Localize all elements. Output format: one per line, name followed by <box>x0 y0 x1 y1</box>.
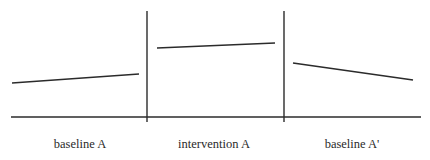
phase-label-intervention-a: intervention A <box>178 137 250 151</box>
trend-line-baseline-a-prime <box>293 63 413 80</box>
aba-design-diagram: baseline A intervention A baseline A' <box>0 0 430 160</box>
trend-line-intervention-a <box>157 43 275 48</box>
phase-label-baseline-a: baseline A <box>54 137 106 151</box>
phase-label-baseline-a-prime: baseline A' <box>325 137 380 151</box>
trend-line-baseline-a <box>12 74 139 83</box>
